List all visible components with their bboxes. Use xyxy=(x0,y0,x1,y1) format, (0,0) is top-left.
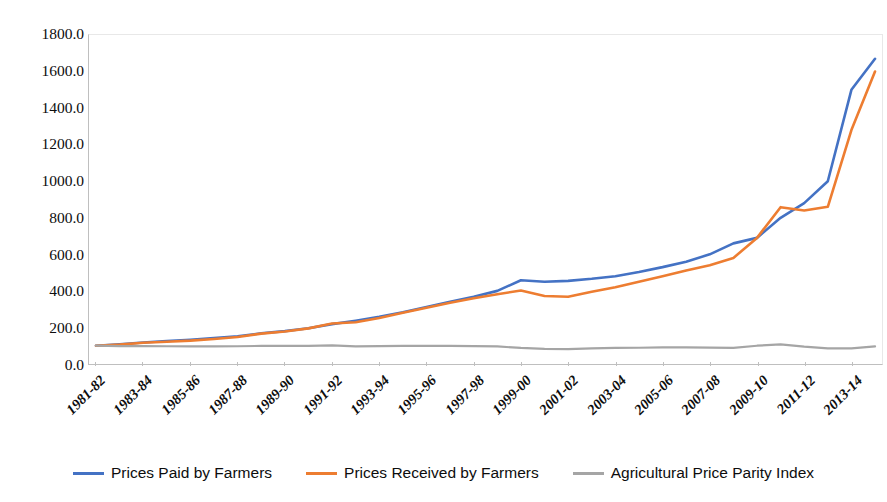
x-tick-label: 1991-92 xyxy=(288,372,345,429)
series-line xyxy=(96,59,875,346)
y-tick-label: 0.0 xyxy=(0,356,84,374)
x-tick-mark xyxy=(426,362,427,366)
x-tick-label: 2003-04 xyxy=(572,372,629,429)
y-tick-label: 600.0 xyxy=(0,246,84,264)
x-tick-label: 1985-86 xyxy=(146,372,203,429)
y-tick-label: 800.0 xyxy=(0,209,84,227)
x-tick-label: 1981-82 xyxy=(52,372,109,429)
x-tick-mark xyxy=(616,362,617,366)
x-tick-mark xyxy=(237,362,238,366)
x-tick-label: 1983-84 xyxy=(99,372,156,429)
x-tick-label: 2001-02 xyxy=(525,372,582,429)
x-tick-mark xyxy=(805,362,806,366)
y-tick-label: 200.0 xyxy=(0,319,84,337)
legend-label: Agricultural Price Parity Index xyxy=(611,464,814,482)
line-chart: 1800.01600.01400.01200.01000.0800.0600.0… xyxy=(0,0,887,502)
x-tick-label: 1999-00 xyxy=(478,372,535,429)
x-tick-label: 1993-94 xyxy=(336,372,393,429)
y-tick-label: 1600.0 xyxy=(0,62,84,80)
legend-color-swatch xyxy=(306,472,337,475)
legend-item[interactable]: Agricultural Price Parity Index xyxy=(573,464,814,482)
y-axis: 1800.01600.01400.01200.01000.0800.0600.0… xyxy=(0,0,84,380)
x-tick-mark xyxy=(142,362,143,366)
series-line xyxy=(96,344,875,349)
x-tick-mark xyxy=(474,362,475,366)
x-tick-label: 2013-14 xyxy=(809,372,866,429)
y-tick-label: 1200.0 xyxy=(0,135,84,153)
x-tick-mark xyxy=(284,362,285,366)
series-canvas xyxy=(89,35,882,364)
legend-color-swatch xyxy=(73,472,104,475)
x-tick-mark xyxy=(568,362,569,366)
x-tick-mark xyxy=(190,362,191,366)
x-tick-mark xyxy=(379,362,380,366)
y-tick-label: 1800.0 xyxy=(0,25,84,43)
series-line xyxy=(96,72,875,346)
x-tick-label: 2011-12 xyxy=(762,372,819,429)
y-tick-label: 1000.0 xyxy=(0,172,84,190)
legend-item[interactable]: Prices Received by Farmers xyxy=(306,464,539,482)
x-tick-label: 1987-88 xyxy=(194,372,251,429)
x-tick-mark xyxy=(710,362,711,366)
legend-item[interactable]: Prices Paid by Farmers xyxy=(73,464,272,482)
x-tick-label: 2005-06 xyxy=(620,372,677,429)
x-tick-mark xyxy=(758,362,759,366)
x-tick-label: 2007-08 xyxy=(667,372,724,429)
x-tick-mark xyxy=(663,362,664,366)
chart-legend: Prices Paid by FarmersPrices Received by… xyxy=(0,458,887,488)
x-tick-mark xyxy=(95,362,96,366)
x-axis: 1981-821983-841985-861987-881989-901991-… xyxy=(88,366,883,452)
x-tick-label: 1995-96 xyxy=(383,372,440,429)
x-tick-mark xyxy=(332,362,333,366)
y-tick-label: 1400.0 xyxy=(0,99,84,117)
legend-color-swatch xyxy=(573,472,604,475)
x-tick-label: 1989-90 xyxy=(241,372,298,429)
x-tick-mark xyxy=(521,362,522,366)
x-tick-label: 1997-98 xyxy=(430,372,487,429)
x-tick-mark xyxy=(852,362,853,366)
plot-area xyxy=(88,34,883,365)
legend-label: Prices Received by Farmers xyxy=(344,464,539,482)
legend-label: Prices Paid by Farmers xyxy=(111,464,272,482)
y-tick-label: 400.0 xyxy=(0,282,84,300)
x-tick-label: 2009-10 xyxy=(714,372,771,429)
